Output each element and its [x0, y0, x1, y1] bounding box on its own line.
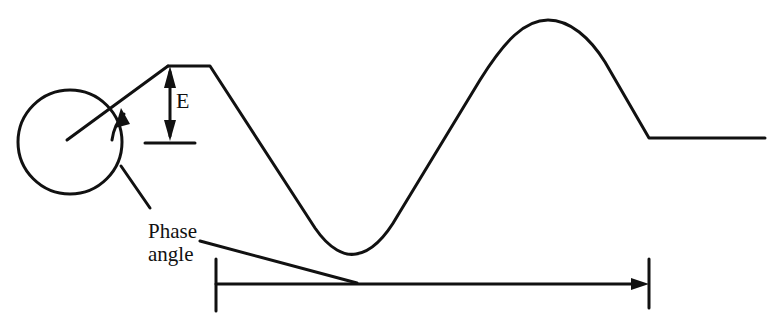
phase-label-line1: Phase — [148, 220, 197, 243]
phase-label-line2: angle — [148, 243, 197, 266]
radius-vector — [67, 66, 168, 140]
amplitude-label: E — [176, 90, 189, 112]
cycle-span-arrowhead-icon — [631, 278, 649, 290]
phase-leader-upper — [121, 166, 150, 208]
waveform-trace — [168, 20, 765, 254]
phase-angle-label: Phase angle — [148, 220, 197, 266]
phasor-waveform-diagram — [0, 0, 775, 333]
amplitude-arrowhead-down-icon — [164, 120, 176, 141]
phasor-circle — [18, 90, 122, 194]
